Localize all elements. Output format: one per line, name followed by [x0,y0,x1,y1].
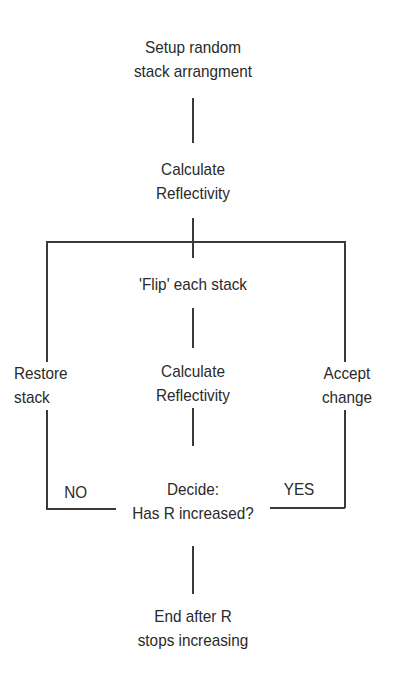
node-restore: Restore stack [14,362,77,410]
edge-label-yes: YES [284,479,315,501]
node-end-line2: stops increasing [120,629,266,653]
node-accept-line1: Accept [316,362,379,386]
connector-loop-top [46,241,345,243]
node-flip: 'Flip' each stack [121,273,265,297]
connector-setup-calc1 [192,98,194,143]
node-calc1-line1: Calculate [125,158,262,182]
node-accept-line2: change [316,386,379,410]
connector-decide-end [192,546,194,594]
node-restore-line2: stack [14,386,77,410]
connector-flip-calc2 [192,308,194,348]
node-setup-line1: Setup random [116,36,271,60]
node-calc2-line2: Reflectivity [125,384,262,408]
connector-calc2-decide [192,406,194,446]
connector-yes [270,507,345,509]
edge-label-no: NO [64,482,87,504]
connector-no [46,508,116,510]
node-accept: Accept change [316,362,379,410]
node-calc2-line1: Calculate [125,360,262,384]
node-decide-line1: Decide: [120,478,266,502]
node-end-line1: End after R [120,605,266,629]
node-setup: Setup random stack arrangment [116,36,271,84]
connector-calc1-flip [192,218,194,258]
node-calculate-reflectivity-2: Calculate Reflectivity [125,360,262,408]
node-restore-line1: Restore [14,362,77,386]
node-decide: Decide: Has R increased? [120,478,266,526]
node-flip-line1: 'Flip' each stack [121,273,265,297]
node-calc1-line2: Reflectivity [125,182,262,206]
node-setup-line2: stack arrangment [116,60,271,84]
node-end: End after R stops increasing [120,605,266,653]
node-calculate-reflectivity-1: Calculate Reflectivity [125,158,262,206]
node-decide-line2: Has R increased? [120,502,266,526]
